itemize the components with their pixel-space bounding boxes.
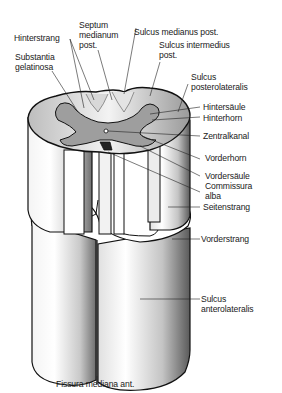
- lower-columns: [32, 220, 190, 390]
- label-septum-medianum-post: Septum medianum post.: [79, 20, 118, 50]
- label-substantia-gelatinosa: Substantia gelatinosa: [15, 52, 55, 72]
- label-sulcus-intermedius-post: Sulcus intermedius post.: [159, 40, 230, 60]
- label-zentralkanal: Zentralkanal: [203, 131, 249, 141]
- label-vordersaeule: Vordersäule: [205, 171, 250, 181]
- cross-section: [28, 88, 190, 154]
- label-sulcus-anterolateralis: Sulcus anterolateralis: [201, 294, 253, 314]
- central-canal: [104, 129, 108, 133]
- label-vorderstrang: Vorderstrang: [201, 234, 249, 244]
- label-hintersaeule: Hintersäule: [203, 102, 245, 112]
- label-seitenstrang: Seitenstrang: [203, 202, 250, 212]
- label-sulcus-medianus-post: Sulcus medianus post.: [134, 27, 218, 37]
- label-hinterhorn: Hinterhorn: [203, 113, 242, 123]
- label-vorderhorn: Vorderhorn: [205, 153, 247, 163]
- label-commissura-alba: Commissura alba: [205, 181, 252, 201]
- label-sulcus-posterolateralis: Sulcus posterolateralis: [191, 72, 248, 92]
- label-hinterstrang: Hinterstrang: [14, 33, 60, 43]
- label-fissura-mediana-ant: Fissura mediana ant.: [56, 379, 134, 389]
